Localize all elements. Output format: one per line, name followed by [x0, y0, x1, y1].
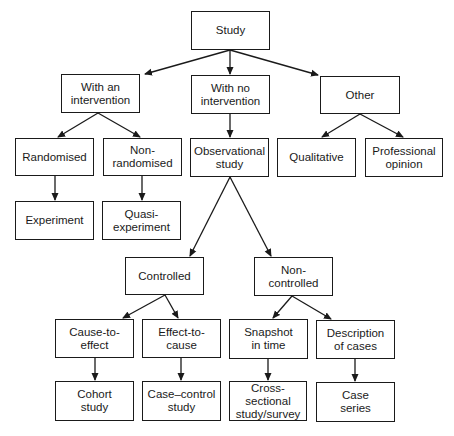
node-label: Other [346, 89, 375, 102]
node-effect-to-cause: Effect-to- cause [142, 319, 221, 358]
node-randomised: Randomised [15, 138, 94, 176]
node-label: Observational study [194, 145, 265, 171]
node-case-series: Case series [316, 382, 395, 422]
node-label: Study [216, 24, 245, 37]
node-experiment: Experiment [15, 201, 94, 240]
node-professional-opinion: Professional opinion [365, 138, 443, 177]
node-label: Professional opinion [372, 145, 435, 171]
node-description-cases: Description of cases [316, 320, 395, 359]
arrow-observational-to-controlled [190, 177, 230, 256]
node-label: Snapshot in time [244, 326, 293, 352]
arrow-controlled-to-cause_to_effect [123, 295, 165, 318]
node-label: Cause-to- effect [69, 326, 120, 352]
arrow-controlled-to-effect_to_cause [165, 295, 178, 318]
node-label: Cohort study [77, 388, 112, 414]
arrow-with_intervention-to-randomised [58, 113, 98, 137]
node-label: Cross-sectional study/survey [232, 382, 304, 421]
node-label: Non- controlled [269, 264, 319, 290]
node-label: Controlled [138, 270, 190, 283]
node-with-intervention: With an intervention [61, 74, 140, 113]
node-label: Description of cases [327, 327, 385, 353]
node-label: Case–control study [148, 388, 216, 414]
node-label: Case series [340, 389, 371, 415]
arrow-study-to-with_intervention [145, 50, 230, 74]
node-label: Qualitative [289, 151, 343, 164]
node-no-intervention: With no intervention [191, 75, 270, 114]
node-non-randomised: Non- randomised [103, 138, 182, 176]
node-controlled: Controlled [125, 257, 204, 295]
node-quasi-experiment: Quasi- experiment [102, 201, 181, 240]
node-label: With no intervention [201, 82, 260, 108]
node-non-controlled: Non- controlled [254, 257, 333, 296]
node-cause-to-effect: Cause-to- effect [55, 319, 134, 358]
arrow-non_controlled-to-description_cases [292, 296, 331, 319]
node-other: Other [320, 76, 400, 114]
arrow-with_intervention-to-non_randomised [98, 113, 140, 137]
arrow-other-to-professional_opinion [360, 114, 403, 137]
node-label: Non- randomised [112, 144, 172, 170]
node-label: Randomised [22, 151, 87, 164]
node-case-control: Case–control study [142, 381, 221, 421]
node-qualitative: Qualitative [277, 138, 356, 177]
node-cohort: Cohort study [55, 381, 134, 421]
node-label: Experiment [25, 214, 83, 227]
node-label: Quasi- experiment [113, 208, 170, 234]
node-observational: Observational study [190, 138, 269, 177]
node-label: With an intervention [71, 81, 130, 107]
node-label: Effect-to- cause [158, 326, 204, 352]
node-study: Study [191, 11, 270, 50]
arrow-observational-to-non_controlled [230, 177, 271, 256]
arrow-non_controlled-to-snapshot [273, 296, 292, 318]
arrow-other-to-qualitative [322, 114, 360, 137]
arrow-study-to-other [230, 50, 318, 75]
node-cross-sectional: Cross-sectional study/survey [229, 381, 307, 421]
node-snapshot: Snapshot in time [229, 319, 308, 359]
